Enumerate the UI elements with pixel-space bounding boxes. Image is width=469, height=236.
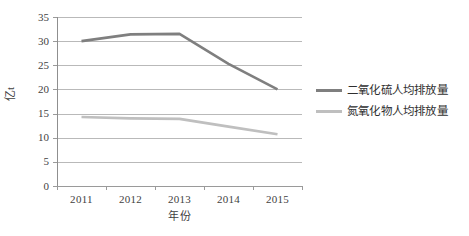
chart-legend: 二氧化硫人均排放量 氮氧化物人均排放量 — [316, 80, 466, 122]
legend-swatch-icon — [316, 89, 342, 92]
y-tick-label: 0 — [18, 181, 49, 192]
x-tick-mark — [204, 186, 205, 190]
x-tick-label: 2012 — [106, 193, 155, 205]
y-tick-label: 30 — [18, 36, 49, 47]
line-chart: 35302520151050 20112012201320142015 亿t 年… — [0, 0, 469, 236]
legend-label: 二氧化硫人均排放量 — [347, 84, 448, 97]
y-tick-label: 20 — [18, 84, 49, 95]
x-tick-label: 2014 — [204, 193, 253, 205]
legend-item-1[interactable]: 氮氧化物人均排放量 — [316, 101, 466, 122]
y-tick-label: 5 — [18, 156, 49, 167]
x-tick-mark — [302, 186, 303, 190]
series-line — [82, 117, 278, 134]
y-tick-label: 15 — [18, 108, 49, 119]
x-tick-mark — [155, 186, 156, 190]
series-line — [82, 34, 278, 90]
y-tick-label: 10 — [18, 132, 49, 143]
y-axis-title: 亿t — [4, 74, 16, 114]
x-tick-label: 2013 — [155, 193, 204, 205]
x-tick-mark — [106, 186, 107, 190]
legend-swatch-icon — [316, 110, 342, 113]
x-tick-mark — [57, 186, 58, 190]
y-tick-label: 35 — [18, 12, 49, 23]
x-tick-label: 2015 — [253, 193, 302, 205]
gridline — [57, 186, 302, 187]
legend-item-0[interactable]: 二氧化硫人均排放量 — [316, 80, 466, 101]
x-tick-mark — [253, 186, 254, 190]
y-tick-label: 25 — [18, 60, 49, 71]
series-lines — [57, 17, 302, 186]
legend-label: 氮氧化物人均排放量 — [347, 105, 448, 118]
x-axis-title: 年份 — [57, 210, 302, 222]
x-tick-label: 2011 — [57, 193, 106, 205]
